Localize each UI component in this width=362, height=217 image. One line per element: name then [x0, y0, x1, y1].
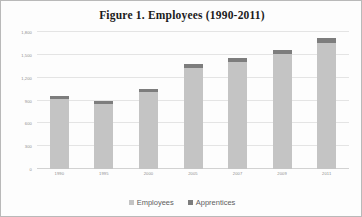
bar-segment-employees[interactable] [50, 99, 69, 169]
bar-group[interactable] [228, 58, 247, 169]
bar-segment-apprentices[interactable] [184, 64, 203, 68]
apprentices-swatch [188, 200, 193, 205]
bar-segment-apprentices[interactable] [317, 38, 336, 43]
figure-container: Figure 1. Employees (1990-2011) 03006009… [0, 0, 362, 217]
bar-group[interactable] [50, 96, 69, 169]
x-tick-label: 2007 [215, 171, 260, 176]
y-tick-label: 1,500 [21, 52, 32, 57]
legend-entry[interactable]: Employees [129, 198, 174, 207]
chart-legend: EmployeesApprentices [1, 198, 362, 207]
bar-segment-employees[interactable] [184, 68, 203, 169]
x-tick-label: 2009 [260, 171, 305, 176]
legend-label: Apprentices [196, 198, 236, 207]
bar-segment-apprentices[interactable] [139, 89, 158, 92]
bar-segment-employees[interactable] [139, 92, 158, 169]
bar-segment-apprentices[interactable] [94, 101, 113, 104]
y-tick-label: 900 [25, 98, 32, 103]
y-axis: 03006009001,2001,5001,800 [1, 32, 35, 169]
bar-segment-apprentices[interactable] [228, 58, 247, 62]
plot-area [37, 32, 349, 169]
y-tick-label: 1,200 [21, 75, 32, 80]
x-tick-label: 2005 [171, 171, 216, 176]
x-tick-label: 2000 [126, 171, 171, 176]
bar-segment-employees[interactable] [317, 43, 336, 169]
bar-group[interactable] [184, 64, 203, 169]
bar-segment-employees[interactable] [94, 104, 113, 169]
bar-segment-employees[interactable] [228, 62, 247, 169]
bar-group[interactable] [139, 89, 158, 169]
bar-group[interactable] [317, 38, 336, 169]
y-tick-label: 0 [30, 167, 32, 172]
bar-group[interactable] [273, 50, 292, 169]
x-tick-label: 1990 [37, 171, 82, 176]
bar-segment-apprentices[interactable] [273, 50, 292, 54]
x-tick-label: 1995 [82, 171, 127, 176]
x-axis: 1990199520002005200720092011 [37, 171, 349, 183]
bar-segment-employees[interactable] [273, 54, 292, 169]
bar-segment-apprentices[interactable] [50, 96, 69, 99]
bars-layer [37, 32, 349, 169]
y-tick-label: 1,800 [21, 30, 32, 35]
chart-title: Figure 1. Employees (1990-2011) [1, 9, 362, 21]
y-tick-label: 600 [25, 121, 32, 126]
bar-group[interactable] [94, 101, 113, 170]
y-tick-label: 300 [25, 144, 32, 149]
legend-entry[interactable]: Apprentices [188, 198, 236, 207]
legend-label: Employees [137, 198, 174, 207]
employees-swatch [129, 200, 134, 205]
x-tick-label: 2011 [304, 171, 349, 176]
